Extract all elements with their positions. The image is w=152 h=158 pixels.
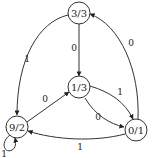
edge-label-0-1-to-3-3: 0 — [128, 38, 134, 48]
state-diagram: 0 1 0 0 1 0 1 1 3/3 1/3 9/2 0/1 — [0, 0, 152, 158]
node-9-2: 9/2 — [6, 116, 28, 138]
edge-0-1-to-3-3 — [90, 14, 138, 119]
edge-label-1-3-to-0-1-upper: 1 — [117, 87, 123, 97]
node-label-0-1: 0/1 — [128, 125, 144, 136]
node-label-3-3: 3/3 — [71, 8, 87, 19]
edge-label-9-2-to-1-3: 0 — [42, 94, 48, 104]
node-0-1: 0/1 — [125, 119, 147, 141]
edge-label-9-2-self-loop: 1 — [1, 149, 7, 158]
node-3-3: 3/3 — [68, 2, 90, 24]
edge-label-3-3-to-9-2: 1 — [24, 54, 30, 64]
edge-label-0-1-to-9-2: 1 — [77, 142, 83, 152]
edge-9-2-to-1-3 — [27, 92, 69, 122]
node-label-9-2: 9/2 — [9, 122, 25, 133]
edge-label-3-3-to-1-3: 0 — [71, 43, 77, 53]
edge-label-1-3-to-0-1-lower: 0 — [95, 112, 101, 122]
node-1-3: 1/3 — [68, 76, 90, 98]
edge-1-3-to-0-1-lower — [85, 98, 124, 127]
edge-0-1-to-9-2 — [28, 131, 125, 139]
node-label-1-3: 1/3 — [71, 82, 87, 93]
